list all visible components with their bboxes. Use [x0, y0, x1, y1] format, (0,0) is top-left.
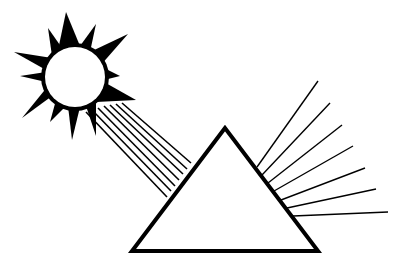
prism-dispersion-diagram — [0, 0, 398, 267]
sun-disc — [45, 47, 105, 107]
